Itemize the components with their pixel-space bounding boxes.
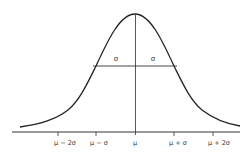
tick-label-mu: μ — [133, 139, 137, 147]
tick-label-mu-plus-2sigma: μ + 2σ — [208, 139, 230, 147]
tick-label-mu-plus-sigma: μ + σ — [169, 139, 187, 147]
sigma-label-right: σ — [151, 55, 156, 63]
normal-distribution-diagram: σ σ μ − 2σ μ − σ μ μ + σ μ + 2σ — [0, 0, 252, 152]
tick-label-mu-minus-2sigma: μ − 2σ — [54, 139, 76, 147]
sigma-label-left: σ — [114, 55, 119, 63]
tick-label-mu-minus-sigma: μ − σ — [90, 139, 108, 147]
bell-curve — [20, 14, 240, 127]
